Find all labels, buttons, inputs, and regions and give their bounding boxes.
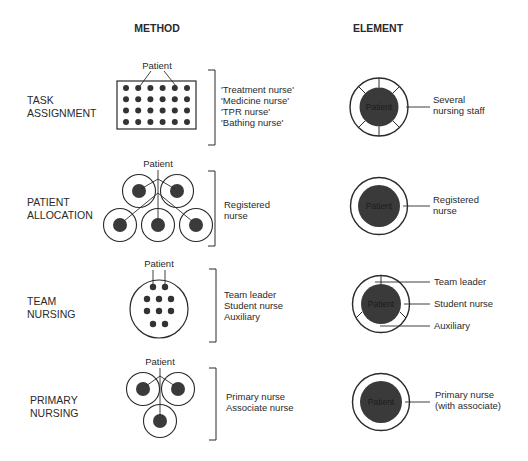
- patient-dot: [172, 85, 178, 91]
- patient-label: Patient: [368, 299, 395, 309]
- patient-dot: [184, 108, 190, 114]
- patient-dot: [172, 96, 178, 102]
- staff-line: Student nurse: [224, 300, 283, 311]
- staff-line: Associate nurse: [226, 402, 294, 413]
- patient-dot: [123, 108, 129, 114]
- patient-dot: [123, 85, 129, 91]
- patient-label: Patient: [145, 356, 175, 367]
- pointer-line: [140, 71, 151, 86]
- patient-dot: [184, 96, 190, 102]
- row-task-assignment: TASK ASSIGNMENT Patient 'Treatment nurse…: [27, 60, 485, 145]
- staff-line: Auxiliary: [224, 311, 260, 322]
- row-label-line-2: ASSIGNMENT: [27, 107, 97, 119]
- method-task-assignment: Patient 'Treatment nurse' 'Medicine nurs…: [117, 60, 294, 145]
- patient-dot: [147, 108, 153, 114]
- callout-text: Primary nurse: [435, 389, 494, 400]
- element-task-assignment: Patient Several nursing staff: [350, 78, 485, 136]
- row-label-line-1: PATIENT: [27, 196, 70, 208]
- element-primary-nursing: Patient Primary nurse (with associate): [353, 374, 502, 431]
- patient-dot: [160, 96, 166, 102]
- row-label-line-2: NURSING: [27, 308, 75, 320]
- staff-line: 'Treatment nurse': [221, 84, 294, 95]
- patient-dot: [184, 85, 190, 91]
- patient-dot: [135, 108, 141, 114]
- row-label-line-1: PRIMARY: [30, 394, 78, 406]
- element-patient-allocation: Patient Registered nurse: [351, 178, 479, 235]
- patient-dots-grid: [123, 85, 190, 125]
- header-element: ELEMENT: [353, 22, 404, 34]
- patient-label: Patient: [143, 158, 173, 169]
- patient-dot: [147, 96, 153, 102]
- patient-dot: [172, 108, 178, 114]
- row-label-line-1: TEAM: [27, 295, 56, 307]
- patient-dot: [160, 119, 166, 125]
- staff-line: Team leader: [224, 289, 276, 300]
- bracket: [208, 70, 215, 145]
- staff-line: 'Bathing nurse': [221, 117, 283, 128]
- staff-line: Primary nurse: [226, 391, 285, 402]
- patient-label: Patient: [366, 102, 393, 112]
- patient-dot: [172, 119, 178, 125]
- patient-dot: [123, 96, 129, 102]
- callout-text: Team leader: [434, 276, 486, 287]
- row-team-nursing: TEAM NURSING Patient Team leader Student…: [27, 258, 493, 342]
- method-patient-allocation: Patient Registered nurse: [104, 158, 270, 246]
- nursing-methods-diagram: METHOD ELEMENT TASK ASSIGNMENT Patient '…: [0, 0, 528, 461]
- callout-text: Several: [433, 94, 465, 105]
- row-label-line-2: NURSING: [30, 407, 78, 419]
- patient-label: Patient: [142, 60, 172, 71]
- row-label-line-1: TASK: [27, 94, 54, 106]
- patient-dot: [123, 119, 129, 125]
- staff-line: 'TPR nurse': [221, 106, 270, 117]
- callout-text: (with associate): [435, 400, 501, 411]
- patient-dot: [147, 85, 153, 91]
- element-team-nursing: Patient Team leader Student nurse Auxili…: [353, 276, 494, 333]
- staff-line: 'Medicine nurse': [221, 95, 289, 106]
- header-method: METHOD: [134, 22, 180, 34]
- row-label-line-2: ALLOCATION: [27, 209, 93, 221]
- patient-dot: [160, 108, 166, 114]
- pointer-line: [164, 71, 176, 86]
- callout-text: nurse: [433, 205, 457, 216]
- patient-dot: [147, 119, 153, 125]
- row-patient-allocation: PATIENT ALLOCATION Patient: [27, 158, 479, 246]
- staff-line: nurse: [224, 210, 248, 221]
- callout-text: Registered: [433, 194, 479, 205]
- callout-text: nursing staff: [433, 105, 485, 116]
- patient-dot: [135, 96, 141, 102]
- patient-label: Patient: [144, 258, 174, 269]
- patient-dot: [160, 85, 166, 91]
- callout-text: Auxiliary: [434, 320, 470, 331]
- patient-dot: [184, 119, 190, 125]
- patient-dot: [135, 119, 141, 125]
- staff-line: Registered: [224, 199, 270, 210]
- patient-label: Patient: [368, 397, 395, 407]
- patient-label: Patient: [366, 201, 393, 211]
- row-primary-nursing: PRIMARY NURSING Patient Primary nurse As…: [30, 356, 501, 440]
- callout-text: Student nurse: [434, 298, 493, 309]
- method-primary-nursing: Patient Primary nurse Associate nurse: [127, 356, 294, 440]
- method-team-nursing: Patient Team leader Student nurse Auxili…: [130, 258, 283, 342]
